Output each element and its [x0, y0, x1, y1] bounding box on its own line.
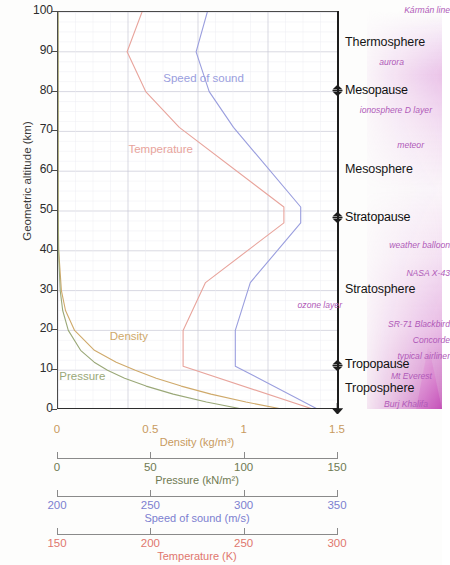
annotation-typical-airliner: typical airliner: [397, 351, 450, 361]
boundary-arrow-icon: [331, 84, 344, 97]
axis-tick: [337, 452, 338, 459]
axis-tick: [244, 490, 245, 497]
annotation-mt-everest: Mt Everest: [391, 371, 432, 381]
axis-rail-line: [57, 496, 337, 497]
annotation-weather-balloon: weather balloon: [389, 240, 450, 250]
layer-label-mesosphere: Mesosphere: [345, 162, 413, 176]
axis-tick: [150, 452, 151, 459]
axis-tick: [150, 490, 151, 497]
plot-wrapper: TemperatureSpeed of soundDensityPressure…: [0, 0, 442, 420]
axis-tick: [337, 528, 338, 535]
axis-tick-label: 250: [234, 537, 253, 549]
axis-tick-label: 150: [47, 537, 66, 549]
plot-area: TemperatureSpeed of soundDensityPressure: [57, 11, 337, 409]
axis-tick-label: 300: [234, 499, 253, 511]
axis-tick-label: 250: [141, 499, 160, 511]
axis-tick-label: 0.5: [142, 423, 158, 435]
altitude-spine: [337, 11, 339, 409]
axis-tick-label: 1: [240, 423, 246, 435]
axis-tick-label: 0: [54, 461, 60, 473]
annotation-ozone-layer: ozone layer: [298, 300, 342, 310]
curve-label-pressure: Pressure: [59, 370, 105, 382]
axis-tick-label: 300: [327, 537, 346, 549]
layer-label-mesopause: Mesopause: [345, 83, 408, 97]
axis-title: Density (kg/m³): [57, 436, 337, 448]
annotation-burj-khalifa: Burj Khalifa: [384, 399, 428, 409]
annotation-ionosphere-d-layer: ionosphere D layer: [360, 105, 432, 115]
curve-label-density: Density: [110, 330, 148, 342]
layer-label-troposphere: Troposphere: [345, 381, 414, 395]
axis-tick-label: 200: [141, 537, 160, 549]
axis-tick-label: 1.5: [329, 423, 345, 435]
annotation-meteor: meteor: [397, 140, 424, 150]
axis-tick-label: 0: [54, 423, 60, 435]
curve-label-temperature: Temperature: [128, 143, 193, 155]
layer-label-stratopause: Stratopause: [345, 210, 410, 224]
axis-rail-line: [57, 534, 337, 535]
axis-tick: [337, 490, 338, 497]
spine-end-arrow-icon: [332, 403, 343, 414]
axis-title: Temperature (K): [57, 550, 337, 562]
axis-tick-label: 150: [327, 461, 346, 473]
boundary-arrow-icon: [331, 211, 344, 224]
annotation-k-rm-n-line: Kármán line: [404, 5, 450, 15]
axis-tick: [57, 452, 58, 459]
layer-label-thermosphere: Thermosphere: [345, 35, 425, 49]
axis-tick: [57, 490, 58, 497]
axis-title: Pressure (kN/m²): [57, 474, 337, 486]
curve-label-speed-of-sound: Speed of sound: [163, 72, 244, 84]
axis-tick: [150, 528, 151, 535]
axis-tick: [244, 452, 245, 459]
axis-tick-label: 100: [234, 461, 253, 473]
axis-tick: [57, 528, 58, 535]
axis-rail-line: [57, 458, 337, 459]
layer-column: ThermosphereMesopauseMesosphereStratopau…: [337, 11, 442, 409]
x-axis-temperature: 150200250300Temperature (K): [0, 528, 442, 565]
layer-label-stratosphere: Stratosphere: [345, 282, 415, 296]
axis-tick-label: 350: [327, 499, 346, 511]
axis-tick-label: 50: [144, 461, 157, 473]
annotation-concorde: Concorde: [413, 335, 450, 345]
boundary-arrow-icon: [331, 359, 344, 372]
axis-tick: [244, 528, 245, 535]
axis-tick-label: 200: [47, 499, 66, 511]
annotation-aurora: aurora: [379, 57, 404, 67]
axis-title: Speed of sound (m/s): [57, 512, 337, 524]
annotation-sr-71-blackbird: SR-71 Blackbird: [388, 319, 450, 329]
annotation-nasa-x-43: NASA X-43: [406, 268, 450, 278]
